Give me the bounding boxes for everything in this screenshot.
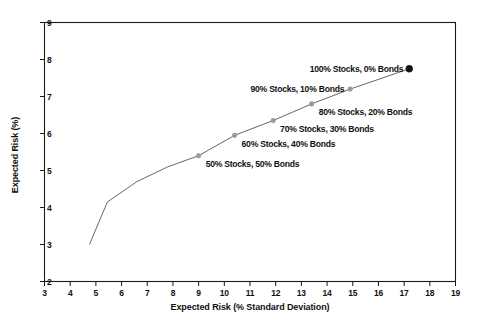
point-label: 100% Stocks, 0% Bonds: [310, 64, 404, 74]
x-tick-label: 19: [451, 288, 460, 298]
x-tick-label: 17: [400, 288, 409, 298]
y-tick-label: 2: [38, 277, 52, 287]
x-tick-label: 5: [94, 288, 99, 298]
point-label: 90% Stocks, 10% Bonds: [251, 84, 345, 94]
point-label: 60% Stocks, 40% Bonds: [242, 139, 336, 149]
y-tick-label: 7: [38, 92, 52, 102]
x-tick-label: 10: [220, 288, 229, 298]
plot-border: [45, 23, 456, 282]
y-tick-label: 8: [38, 55, 52, 65]
marker-filled: [406, 65, 413, 72]
marker-open: [232, 133, 237, 138]
x-tick-label: 16: [374, 288, 383, 298]
x-tick-label: 12: [271, 288, 280, 298]
x-tick-label: 7: [145, 288, 150, 298]
x-tick-label: 15: [348, 288, 357, 298]
marker-open: [271, 118, 276, 123]
point-label: 50% Stocks, 50% Bonds: [206, 159, 300, 169]
x-tick-label: 9: [196, 288, 201, 298]
y-axis-title: Expected Risk (%): [10, 117, 20, 193]
x-tick-label: 8: [171, 288, 176, 298]
y-tick-label: 3: [38, 240, 52, 250]
marker-open: [348, 87, 353, 92]
y-tick-label: 4: [38, 203, 52, 213]
x-tick-label: 3: [42, 288, 47, 298]
frontier-curve: [89, 69, 409, 245]
x-tick-label: 18: [425, 288, 434, 298]
x-axis-ticks: [45, 282, 456, 287]
point-label: 70% Stocks, 30% Bonds: [280, 124, 374, 134]
x-tick-label: 14: [323, 288, 332, 298]
marker-open: [309, 102, 314, 107]
point-label: 80% Stocks, 20% Bonds: [319, 107, 413, 117]
axis-frame: [45, 23, 456, 282]
x-tick-label: 11: [246, 288, 255, 298]
x-axis-title: Expected Risk (% Standard Deviation): [171, 302, 330, 312]
x-tick-label: 13: [297, 288, 306, 298]
x-tick-label: 6: [119, 288, 124, 298]
y-tick-label: 9: [38, 18, 52, 28]
y-tick-label: 5: [38, 166, 52, 176]
y-tick-label: 6: [38, 129, 52, 139]
efficient-frontier-chart: 345678910111213141516171819 23456789 50%…: [0, 0, 479, 325]
x-tick-label: 4: [68, 288, 73, 298]
marker-open: [196, 153, 201, 158]
